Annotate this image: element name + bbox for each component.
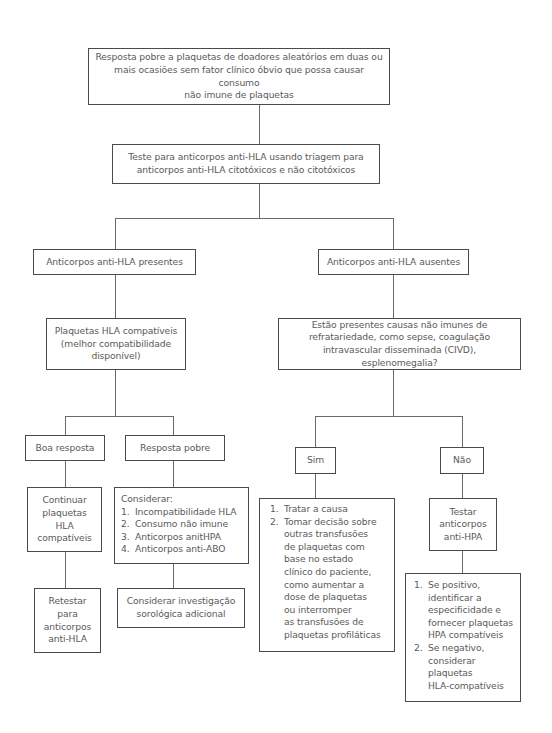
- list-item: 1.Se positivo, identificar a especificid…: [414, 579, 513, 642]
- node-treat-cause-list: 1.Tratar a causa 2.Tomar decisão sobre o…: [270, 503, 381, 642]
- node-serologic: Considerar investigação sorológica adici…: [117, 588, 245, 628]
- node-yes: Sim: [295, 447, 336, 474]
- connector-yes-to-treat: [315, 473, 316, 498]
- list-item: 2.Consumo não imune: [121, 518, 237, 531]
- connector-test-down: [259, 183, 260, 218]
- connector-to-good: [65, 416, 66, 435]
- list-number: 1.: [121, 506, 130, 519]
- node-consider: Considerar: 1.Incompatibilidade HLA 2.Co…: [114, 487, 249, 564]
- connector-consider-to-serologic: [173, 563, 174, 588]
- list-item: 1.Tratar a causa: [270, 503, 381, 516]
- connector-poor-to-consider: [173, 460, 174, 487]
- flowchart: Resposta pobre a plaquetas de doadores a…: [0, 0, 552, 733]
- node-nonimmune-question: Estão presentes causas não imunes de ref…: [278, 318, 521, 370]
- node-test-hpa: Testar anticorpos anti-HPA: [429, 498, 497, 551]
- node-poor-response: Resposta pobre: [125, 435, 225, 461]
- node-test-hla-text: Teste para anticorpos anti-HLA usando tr…: [128, 151, 363, 176]
- node-test-hla: Teste para anticorpos anti-HLA usando tr…: [112, 144, 380, 184]
- list-text: Consumo não imune: [135, 518, 228, 529]
- list-number: 2.: [270, 516, 279, 529]
- list-number: 1.: [414, 579, 423, 592]
- node-nonimmune-question-text: Estão presentes causas não imunes de ref…: [285, 319, 514, 369]
- connector-right-branch: [315, 416, 463, 417]
- list-text: Anticorpos anti-ABO: [135, 543, 225, 554]
- connector-start-to-test: [259, 104, 260, 144]
- connector-left-branch: [65, 416, 174, 417]
- list-text: Tratar a causa: [284, 503, 348, 514]
- node-hla-present: Anticorpos anti-HLA presentes: [33, 249, 196, 275]
- list-item: 3.Anticorpos anitHPA: [121, 531, 237, 544]
- node-hpa-result: 1.Se positivo, identificar a especificid…: [405, 573, 521, 702]
- node-serologic-text: Considerar investigação sorológica adici…: [127, 595, 236, 620]
- node-no: Não: [440, 447, 484, 474]
- connector-to-absent: [393, 218, 394, 249]
- node-good-response-text: Boa resposta: [36, 442, 95, 455]
- list-number: 3.: [121, 531, 130, 544]
- connector-to-no: [462, 416, 463, 447]
- list-text: Se positivo, identificar a especificidad…: [428, 579, 513, 640]
- node-yes-text: Sim: [307, 454, 324, 467]
- list-text: Se negativo, considerar plaquetas HLA-co…: [428, 642, 504, 691]
- connector-no-to-testhpa: [462, 473, 463, 498]
- connector-to-yes: [315, 416, 316, 447]
- list-text: Tomar decisão sobre outras transfusões d…: [284, 516, 381, 640]
- list-text: Anticorpos anitHPA: [135, 531, 221, 542]
- connector-compatible-down: [115, 369, 116, 416]
- list-number: 2.: [414, 642, 423, 655]
- node-hla-absent-text: Anticorpos anti-HLA ausentes: [327, 256, 460, 269]
- list-number: 4.: [121, 543, 130, 556]
- node-retest-hla-text: Retestar para anticorpos anti-HLA: [44, 595, 91, 645]
- node-hla-compatible: Plaquetas HLA compatíveis (melhor compat…: [46, 318, 186, 370]
- list-item: 4.Anticorpos anti-ABO: [121, 543, 237, 556]
- connector-good-to-continue: [65, 460, 66, 487]
- list-text: Incompatibilidade HLA: [135, 506, 237, 517]
- connector-level1-branch: [115, 218, 394, 219]
- node-continue-hla-text: Continuar plaquetas HLA compatíveis: [37, 494, 92, 544]
- list-number: 1.: [270, 503, 279, 516]
- list-number: 2.: [121, 518, 130, 531]
- node-no-text: Não: [453, 454, 471, 467]
- connector-question-down: [393, 369, 394, 416]
- node-continue-hla: Continuar plaquetas HLA compatíveis: [27, 487, 102, 552]
- node-good-response: Boa resposta: [25, 435, 105, 461]
- node-poor-response-text: Resposta pobre: [140, 442, 210, 455]
- node-consider-list: 1.Incompatibilidade HLA 2.Consumo não im…: [121, 506, 237, 556]
- connector-to-present: [115, 218, 116, 249]
- node-hla-present-text: Anticorpos anti-HLA presentes: [46, 256, 183, 269]
- connector-continue-to-retest: [65, 551, 66, 588]
- node-consider-heading: Considerar:: [121, 493, 237, 506]
- list-item: 2.Se negativo, considerar plaquetas HLA-…: [414, 642, 513, 692]
- connector-absent-to-question: [393, 274, 394, 318]
- node-hpa-result-list: 1.Se positivo, identificar a especificid…: [414, 579, 513, 692]
- node-test-hpa-text: Testar anticorpos anti-HPA: [439, 506, 486, 544]
- node-consider-content: Considerar: 1.Incompatibilidade HLA 2.Co…: [121, 493, 237, 556]
- connector-testhpa-to-result: [462, 550, 463, 573]
- node-hla-compatible-text: Plaquetas HLA compatíveis (melhor compat…: [55, 325, 178, 363]
- node-start: Resposta pobre a plaquetas de doadores a…: [88, 48, 390, 105]
- connector-to-poor: [173, 416, 174, 435]
- connector-present-to-compatible: [115, 274, 116, 318]
- node-treat-cause: 1.Tratar a causa 2.Tomar decisão sobre o…: [259, 498, 395, 652]
- list-item: 1.Incompatibilidade HLA: [121, 506, 237, 519]
- node-start-text: Resposta pobre a plaquetas de doadores a…: [95, 51, 383, 101]
- node-hla-absent: Anticorpos anti-HLA ausentes: [318, 249, 469, 275]
- node-retest-hla: Retestar para anticorpos anti-HLA: [34, 588, 101, 653]
- list-item: 2.Tomar decisão sobre outras transfusões…: [270, 516, 381, 642]
